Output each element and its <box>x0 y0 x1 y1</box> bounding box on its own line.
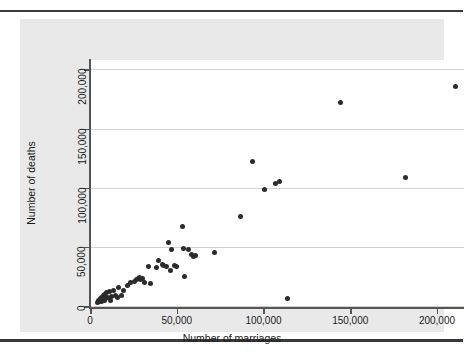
y-tick-label: 50,000 <box>77 246 88 277</box>
y-tick-label: 0 <box>77 306 88 312</box>
data-point <box>169 247 174 252</box>
x-tick-mark <box>350 309 352 314</box>
data-point <box>166 240 171 245</box>
data-point <box>119 293 124 298</box>
data-point <box>212 250 217 255</box>
data-point <box>182 274 187 279</box>
y-axis-title: Number of deaths <box>24 60 38 306</box>
data-point <box>168 268 173 273</box>
data-point <box>285 296 290 301</box>
data-point <box>262 187 267 192</box>
gridline-y <box>91 247 464 248</box>
data-point <box>453 84 458 89</box>
x-tick-label: 200,000 <box>419 315 455 326</box>
x-tick-mark <box>437 309 439 314</box>
x-tick-mark <box>177 309 179 314</box>
data-point <box>193 253 198 258</box>
page-rule-top <box>0 10 463 12</box>
x-tick-mark <box>263 309 265 314</box>
data-point <box>148 281 153 286</box>
x-tick-label: 0 <box>87 315 93 326</box>
data-point <box>250 159 255 164</box>
plot-area <box>90 60 464 306</box>
data-point <box>154 265 159 270</box>
data-point <box>142 280 147 285</box>
x-tick-mark <box>90 309 92 314</box>
data-point <box>238 214 243 219</box>
x-tick-label: 100,000 <box>245 315 281 326</box>
gridline-y <box>91 69 464 70</box>
gridline-y <box>91 129 464 130</box>
data-point <box>121 288 126 293</box>
data-point <box>403 175 408 180</box>
data-point <box>277 179 282 184</box>
y-tick-label: 200,000 <box>77 69 88 105</box>
x-axis-line <box>89 307 464 309</box>
y-tick-label: 100,000 <box>77 187 88 223</box>
x-tick-label: 50,000 <box>161 315 192 326</box>
gridline-y <box>91 188 464 189</box>
y-axis-title-label: Number of deaths <box>25 141 37 224</box>
x-tick-label: 150,000 <box>332 315 368 326</box>
scatter-plot-figure: 050,000100,000150,000200,000 050,000100,… <box>20 19 444 332</box>
x-axis-title: Number of marriages <box>20 332 444 344</box>
data-point <box>146 264 151 269</box>
y-axis-line <box>89 59 91 308</box>
data-point <box>180 224 185 229</box>
data-point <box>186 247 191 252</box>
y-tick-label: 150,000 <box>77 128 88 164</box>
data-point <box>338 100 343 105</box>
data-point <box>174 264 179 269</box>
